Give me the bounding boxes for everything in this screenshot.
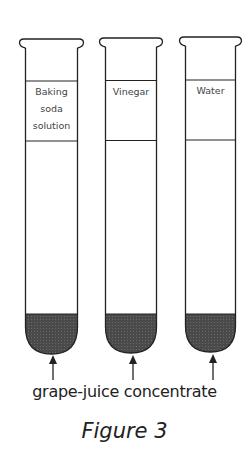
test-tube-baking-soda: Baking soda solution (20, 39, 84, 354)
tube-label-line: Vinegar (113, 86, 150, 97)
figure-title: Figure 3 (0, 419, 249, 443)
tube-lip (180, 37, 242, 46)
arrow-up-icon (209, 354, 217, 380)
test-tube-water: Water (180, 37, 242, 352)
tube-label-line: solution (33, 120, 71, 131)
contents-caption: grape-juice concentrate (0, 382, 249, 401)
test-tube-vinegar: Vinegar (100, 38, 163, 353)
tube-label-line: Water (196, 85, 224, 96)
tube-label-line: soda (40, 103, 63, 114)
tube-lip (20, 39, 84, 48)
tube-label-line: Baking (35, 86, 68, 97)
arrow-up-icon (129, 355, 137, 380)
tube-lip (100, 38, 163, 47)
arrow-up-icon (49, 355, 57, 380)
